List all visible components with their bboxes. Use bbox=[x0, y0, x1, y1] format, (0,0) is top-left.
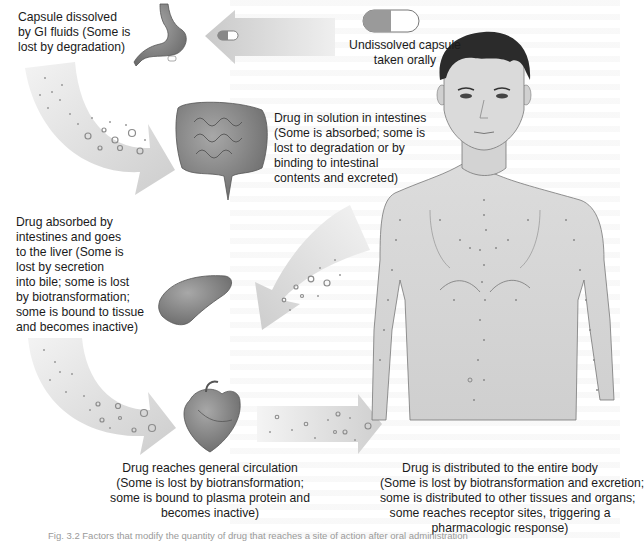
capsule-icon bbox=[363, 10, 419, 32]
stomach-icon bbox=[134, 4, 186, 66]
figure-caption: Fig. 3.2 Factors that modify the quantit… bbox=[48, 530, 468, 541]
label-line: lost to degradation or by bbox=[274, 141, 426, 156]
arrow-liver-to-heart bbox=[28, 338, 176, 455]
label-line: to the liver (Some is bbox=[16, 245, 144, 260]
label-line: some is bound to plasma protein and bbox=[100, 491, 320, 506]
arrow-capsule-to-stomach bbox=[205, 10, 335, 64]
label-line: into bile; some is lost bbox=[16, 275, 144, 290]
label-line: lost by secretion bbox=[16, 260, 144, 275]
label-stomach: Capsule dissolved by GI fluids (Some is … bbox=[18, 10, 130, 55]
label-line: binding to intestinal bbox=[274, 156, 426, 171]
liver-icon bbox=[159, 276, 232, 325]
label-line: Drug in solution in intestines bbox=[274, 111, 426, 126]
label-line: lost by degradation) bbox=[18, 40, 130, 55]
label-intestines: Drug in solution in intestines (Some is … bbox=[274, 111, 426, 186]
label-line: becomes inactive) bbox=[100, 506, 320, 521]
label-line: and becomes inactive) bbox=[16, 320, 144, 335]
label-line: Drug is distributed to the entire body bbox=[380, 461, 620, 476]
label-line: some is distributed to other tissues and… bbox=[380, 491, 620, 506]
label-capsule: Undissolved capsule taken orally bbox=[345, 38, 465, 68]
human-body-icon bbox=[372, 32, 614, 420]
label-line: (Some is lost by biotransformation; bbox=[100, 476, 320, 491]
intestines-icon bbox=[176, 102, 267, 200]
label-line: by biotransformation; bbox=[16, 290, 144, 305]
label-line: taken orally bbox=[345, 53, 465, 68]
label-line: some reaches receptor sites, triggering … bbox=[380, 506, 620, 521]
small-capsule-icon bbox=[218, 31, 239, 40]
label-circulation: Drug reaches general circulation (Some i… bbox=[100, 461, 320, 521]
label-line: by GI fluids (Some is bbox=[18, 25, 130, 40]
arrow-intestines-to-liver bbox=[255, 205, 370, 330]
label-line: (Some is lost by biotransformation and e… bbox=[380, 476, 620, 491]
label-line: contents and excreted) bbox=[274, 171, 426, 186]
arrow-heart-to-body bbox=[257, 394, 382, 454]
label-line: Drug reaches general circulation bbox=[100, 461, 320, 476]
arrow-stomach-to-intestines bbox=[25, 62, 175, 195]
label-line: intestines and goes bbox=[16, 230, 144, 245]
heart-icon bbox=[184, 381, 240, 452]
label-liver: Drug absorbed by intestines and goes to … bbox=[16, 215, 144, 335]
label-line: Undissolved capsule bbox=[345, 38, 465, 53]
label-line: (Some is absorbed; some is bbox=[274, 126, 426, 141]
label-line: some is bound to tissue bbox=[16, 305, 144, 320]
label-line: Drug absorbed by bbox=[16, 215, 144, 230]
label-body: Drug is distributed to the entire body (… bbox=[380, 461, 620, 536]
label-line: Capsule dissolved bbox=[18, 10, 130, 25]
